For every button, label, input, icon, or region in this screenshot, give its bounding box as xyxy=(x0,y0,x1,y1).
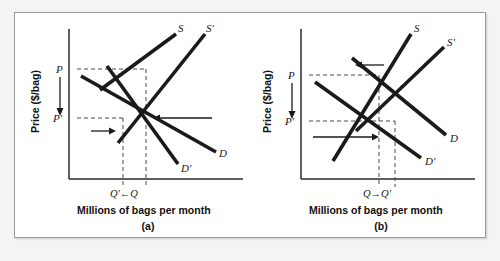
quantity-change-label: Q'←Q xyxy=(110,188,138,199)
panel-a: S S' D D' P P' xyxy=(15,13,251,239)
y-axis-title: Price ($/bag) xyxy=(29,70,41,133)
label-curve-s-prime: S' xyxy=(447,36,456,48)
price-change-arrow xyxy=(57,77,64,116)
panel-b: S S' D D' P P' xyxy=(251,13,487,239)
label-curve-d: D xyxy=(449,132,458,144)
label-curve-s: S xyxy=(178,22,184,34)
label-price-low: P' xyxy=(284,115,295,127)
label-price-high: P xyxy=(287,69,295,81)
x-axis-title: Millions of bags per month xyxy=(309,204,443,216)
y-axis-title: Price ($/bag) xyxy=(261,70,273,133)
demand-curve-d xyxy=(81,76,216,152)
panel-a-plot: S S' D D' P P' xyxy=(15,13,251,239)
supply-shift-arrow xyxy=(91,128,116,135)
label-price-low: P' xyxy=(52,112,63,124)
panel-tag-a: (a) xyxy=(142,220,155,232)
label-curve-s-prime: S' xyxy=(206,22,215,34)
label-price-high: P xyxy=(55,63,63,75)
label-curve-d-prime: D' xyxy=(180,162,192,174)
supply-curve-s-prime xyxy=(118,34,205,143)
figure-frame: S S' D D' P P' xyxy=(14,12,486,238)
supply-curve-s-prime xyxy=(356,47,444,131)
quantity-change-label: Q→Q' xyxy=(363,188,392,199)
supply-curve-s xyxy=(100,34,176,90)
x-axis-title: Millions of bags per month xyxy=(77,204,211,216)
label-curve-s: S xyxy=(414,22,420,34)
label-curve-d-prime: D' xyxy=(424,155,436,167)
demand-curve-d-prime xyxy=(315,82,421,158)
figure-root: S S' D D' P P' xyxy=(0,0,500,261)
panel-tag-b: (b) xyxy=(374,220,387,232)
panel-b-plot: S S' D D' P P' xyxy=(251,13,487,239)
price-change-arrow xyxy=(289,83,296,119)
label-curve-d: D xyxy=(218,147,227,159)
